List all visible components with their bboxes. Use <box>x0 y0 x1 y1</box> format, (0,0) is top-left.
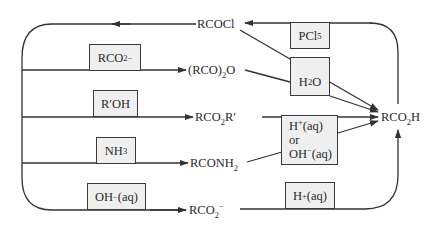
reagent-box-hydrolysis: H+(aq) or OH−(aq) <box>281 115 338 165</box>
reagent-box-h2o: H2O <box>290 57 330 96</box>
reagent-box-alcohol: R′OH <box>93 90 138 117</box>
line-anhydride-to-h2o <box>245 70 290 82</box>
compound-amide: RCONH2 <box>190 156 238 170</box>
compound-anhydride: (RCO)2O <box>188 63 235 77</box>
compound-carboxylate: RCO2− <box>189 203 224 217</box>
line-amide-to-hydrolysis <box>247 152 282 162</box>
compound-acid-chloride: RCOCl <box>197 17 235 31</box>
compound-ester: RCO2R′ <box>195 110 236 124</box>
hydrolysis-line-acid: H+(aq) <box>289 119 323 133</box>
compound-carboxylic-acid: RCO2H <box>381 110 420 124</box>
reagent-box-ammonia: NH3 <box>96 137 136 164</box>
reagent-box-pcl5: PCl5 <box>290 22 330 49</box>
reagent-box-carboxylate: RCO2− <box>89 44 141 71</box>
reagent-box-hydroxide: OH−(aq) <box>87 183 146 210</box>
hydrolysis-line-base: OH−(aq) <box>289 147 332 161</box>
hydrolysis-line-or: or <box>289 133 299 147</box>
reagent-box-acid: H+(aq) <box>285 182 335 209</box>
